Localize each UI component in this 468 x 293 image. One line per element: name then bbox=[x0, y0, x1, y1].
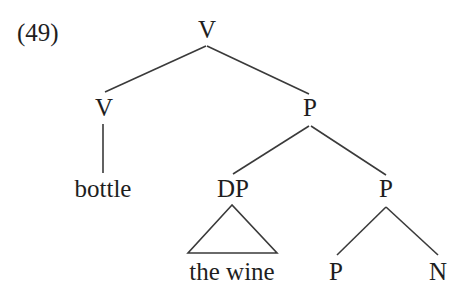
node-p-low: P bbox=[329, 259, 343, 284]
branch-p-to-dp bbox=[233, 126, 309, 174]
branch-root-to-v bbox=[105, 46, 206, 92]
node-root-v: V bbox=[198, 17, 216, 42]
example-number: (49) bbox=[17, 20, 59, 45]
syntax-tree: (49) V V P bottle DP P the wine P N bbox=[0, 0, 468, 293]
tree-branches bbox=[0, 0, 468, 293]
branch-p-to-p bbox=[311, 126, 386, 175]
node-n-low: N bbox=[429, 259, 447, 284]
node-p-right: P bbox=[303, 95, 317, 120]
branch-p-to-p-low bbox=[337, 207, 386, 255]
branch-root-to-p bbox=[207, 46, 309, 94]
node-p-mid: P bbox=[379, 176, 393, 201]
dp-triangle bbox=[188, 205, 277, 253]
branch-p-to-n bbox=[386, 207, 438, 255]
leaf-the-wine: the wine bbox=[189, 259, 274, 284]
leaf-bottle: bottle bbox=[75, 176, 132, 201]
node-v-left: V bbox=[95, 95, 113, 120]
node-dp: DP bbox=[217, 176, 249, 201]
